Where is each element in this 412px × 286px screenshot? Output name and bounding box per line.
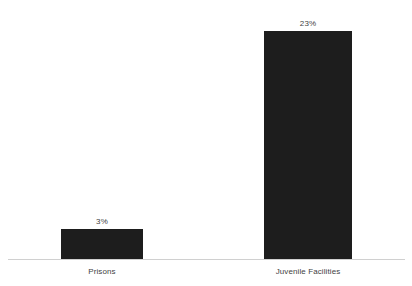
plot-area: 3% 23% (0, 0, 412, 259)
bar-value-label: 23% (264, 19, 352, 29)
bar-chart: 3% 23% Prisons Juvenile Facilities (0, 0, 412, 286)
bar-juvenile-facilities[interactable] (264, 31, 352, 259)
category-label-juvenile-facilities: Juvenile Facilities (244, 266, 372, 277)
category-label-prisons: Prisons (61, 266, 143, 277)
category-axis-line (8, 259, 405, 260)
bar-value-label: 3% (61, 217, 143, 227)
bar-prisons[interactable] (61, 229, 143, 259)
